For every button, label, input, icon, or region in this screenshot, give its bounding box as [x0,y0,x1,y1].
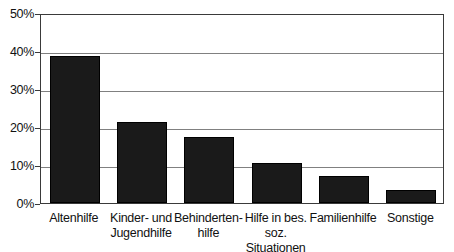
plot-area [40,14,444,204]
bar-chart: 0%10%20%30%40%50% AltenhilfeKinder- und … [0,0,454,252]
y-axis-tick-label: 30% [0,84,34,97]
bar [117,122,167,203]
bar [319,176,369,203]
y-axis-tick-label: 10% [0,160,34,173]
gridline-40 [41,53,443,54]
bar [386,190,436,203]
gridline-20 [41,129,443,130]
bar [252,163,302,203]
y-tick-mark-0 [35,204,40,205]
y-axis-tick-label: 50% [0,8,34,21]
y-axis-tick-label: 40% [0,46,34,59]
gridline-30 [41,91,443,92]
bar [50,56,100,203]
y-axis-tick-label: 20% [0,122,34,135]
y-axis-tick-label: 0% [0,198,34,211]
x-axis-category-label: Sonstige [371,211,450,226]
bar [184,137,234,203]
gridline-10 [41,167,443,168]
